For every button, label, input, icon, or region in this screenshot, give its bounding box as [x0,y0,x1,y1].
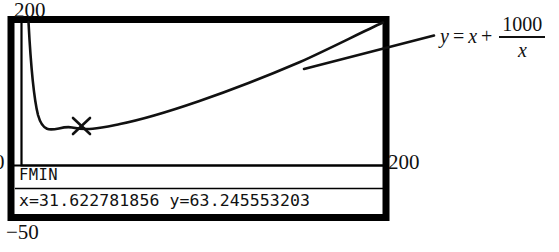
equation-term-x: x [468,25,477,48]
fraction-denominator: x [518,38,527,60]
calculator-screen-figure: 200 0 200 −50 FMIN x=31.622781856 y=63.2… [0,0,559,252]
y-min-label: −50 [6,222,39,243]
coordinate-readout: x=31.622781856 y=63.245553203 [19,193,310,210]
y-max-label: 200 [14,0,46,21]
function-curve [29,22,384,130]
equation-equals: = [449,25,468,48]
y-origin-label: 0 [0,152,5,173]
equation-plus: + [477,25,496,48]
fmin-status-label: FMIN [19,168,58,184]
x-max-label: 200 [388,152,420,173]
fraction-numerator: 1000 [500,14,544,36]
equation-fraction: 1000 x [499,14,545,60]
minimum-cross-marker [73,118,90,134]
equation-annotation: y = x + 1000 x [440,14,545,60]
equation-lhs: y [440,25,449,48]
plot-axis-lines [22,22,385,166]
